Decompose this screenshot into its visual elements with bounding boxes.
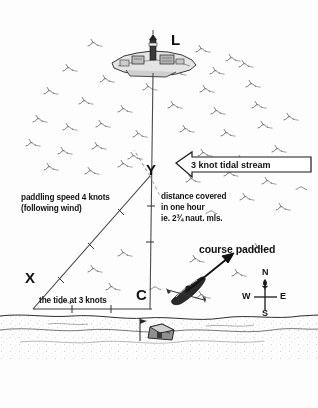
tide-at-3-knots-label: the tide at 3 knots bbox=[39, 296, 107, 306]
vertex-label-C: C bbox=[136, 286, 147, 304]
course-arrow-icon bbox=[186, 253, 234, 292]
paddling-speed-label-line1: paddling speed 4 knots bbox=[21, 193, 110, 203]
vertex-label-X: X bbox=[25, 269, 35, 287]
course-paddled-label: course paddled bbox=[199, 243, 275, 255]
compass-west-label: W bbox=[242, 291, 251, 301]
lighthouse-island-icon bbox=[112, 30, 196, 77]
diagram-canvas: L Y X C 3 knot tidal stream paddling spe… bbox=[0, 0, 318, 408]
vertex-label-L: L bbox=[171, 31, 180, 49]
resultant-vector-line bbox=[146, 73, 155, 309]
compass-north-label: N bbox=[262, 267, 269, 277]
compass-east-label: E bbox=[280, 291, 286, 301]
distance-covered-label-line3: ie. 2¾ naut. mls. bbox=[161, 214, 223, 224]
compass-south-label: S bbox=[262, 308, 268, 318]
compass-rose-icon bbox=[254, 279, 277, 310]
vertex-label-Y: Y bbox=[146, 161, 156, 179]
tide-vector-line bbox=[33, 305, 152, 313]
distance-covered-label-line1: distance covered bbox=[161, 192, 226, 202]
tidal-stream-label: 3 knot tidal stream bbox=[191, 160, 271, 170]
paddling-speed-label-line2: (following wind) bbox=[21, 204, 82, 214]
distance-covered-label-line2: in one hour bbox=[161, 203, 204, 213]
